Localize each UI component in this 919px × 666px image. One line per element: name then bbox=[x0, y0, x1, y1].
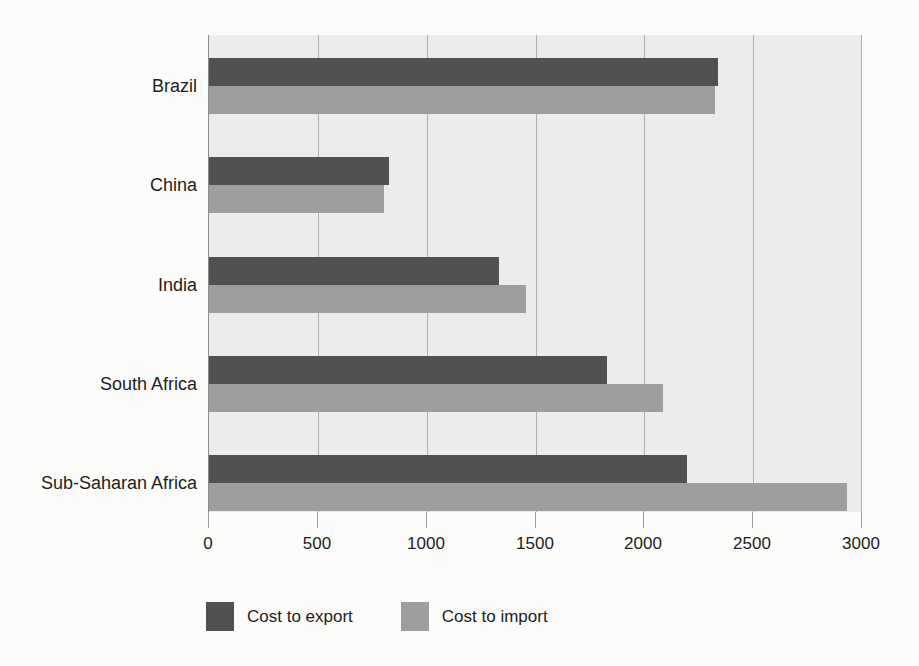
legend-item: Cost to export bbox=[206, 602, 353, 631]
bar-cost-to-import bbox=[209, 285, 526, 313]
category-label: Sub-Saharan Africa bbox=[10, 471, 197, 495]
legend: Cost to exportCost to import bbox=[206, 602, 548, 631]
x-tick-label: 2000 bbox=[598, 534, 688, 554]
legend-swatch-cost-to-export bbox=[206, 602, 234, 631]
gridline bbox=[753, 35, 754, 512]
x-tick-label: 2500 bbox=[707, 534, 797, 554]
bar-cost-to-import bbox=[209, 483, 847, 511]
x-axis-tick bbox=[535, 512, 536, 528]
plot-area bbox=[208, 35, 861, 512]
x-axis-tick bbox=[426, 512, 427, 528]
category-label: South Africa bbox=[10, 372, 197, 396]
category-label: Brazil bbox=[10, 74, 197, 98]
gridline bbox=[861, 35, 862, 512]
bar-cost-to-export bbox=[209, 356, 607, 384]
bar-cost-to-import bbox=[209, 384, 663, 412]
x-tick-label: 0 bbox=[163, 534, 253, 554]
category-label: India bbox=[10, 273, 197, 297]
bar-cost-to-import bbox=[209, 185, 384, 213]
bar-cost-to-import bbox=[209, 86, 715, 114]
legend-swatch-cost-to-import bbox=[401, 602, 429, 631]
legend-item: Cost to import bbox=[401, 602, 548, 631]
bar-cost-to-export bbox=[209, 58, 718, 86]
category-label: China bbox=[10, 173, 197, 197]
bar-cost-to-export bbox=[209, 455, 687, 483]
legend-label: Cost to export bbox=[247, 607, 353, 627]
x-tick-label: 1500 bbox=[490, 534, 580, 554]
x-tick-label: 500 bbox=[272, 534, 362, 554]
x-tick-label: 3000 bbox=[816, 534, 906, 554]
x-axis-tick bbox=[317, 512, 318, 528]
legend-label: Cost to import bbox=[442, 607, 548, 627]
bar-cost-to-export bbox=[209, 257, 499, 285]
bar-chart-figure: BrazilChinaIndiaSouth AfricaSub-Saharan … bbox=[0, 0, 919, 666]
x-axis-tick bbox=[861, 512, 862, 528]
x-axis-tick bbox=[208, 512, 209, 528]
x-tick-label: 1000 bbox=[381, 534, 471, 554]
x-axis-tick bbox=[752, 512, 753, 528]
x-axis-tick bbox=[643, 512, 644, 528]
bar-cost-to-export bbox=[209, 157, 389, 185]
